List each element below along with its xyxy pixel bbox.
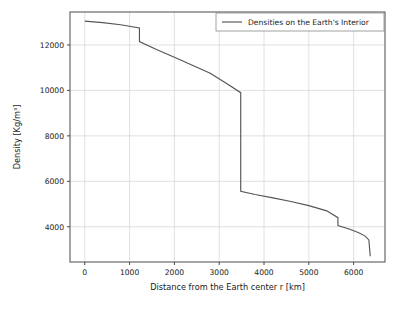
y-tick-label: 4000 (45, 223, 64, 232)
x-tick-label: 5000 (299, 268, 318, 277)
density-line-chart: 0100020003000400050006000 40006000800010… (0, 0, 409, 309)
y-tick-label: 10000 (40, 86, 64, 95)
x-tick-label: 4000 (254, 268, 273, 277)
x-tick-label: 3000 (210, 268, 229, 277)
y-axis-label: Density [Kg/m³] (12, 105, 22, 170)
y-tick-label: 6000 (45, 177, 64, 186)
y-tick-label: 8000 (45, 132, 64, 141)
x-tick-label: 1000 (120, 268, 139, 277)
legend-entry-label: Densities on the Earth's Interior (248, 18, 370, 27)
x-tick-label: 0 (82, 268, 87, 277)
chart-legend[interactable]: Densities on the Earth's Interior (216, 13, 384, 31)
x-tick-label: 6000 (344, 268, 363, 277)
chart-figure: 0100020003000400050006000 40006000800010… (0, 0, 409, 309)
x-axis-label: Distance from the Earth center r [km] (150, 282, 305, 292)
y-tick-label: 12000 (40, 41, 64, 50)
x-tick-label: 2000 (165, 268, 184, 277)
